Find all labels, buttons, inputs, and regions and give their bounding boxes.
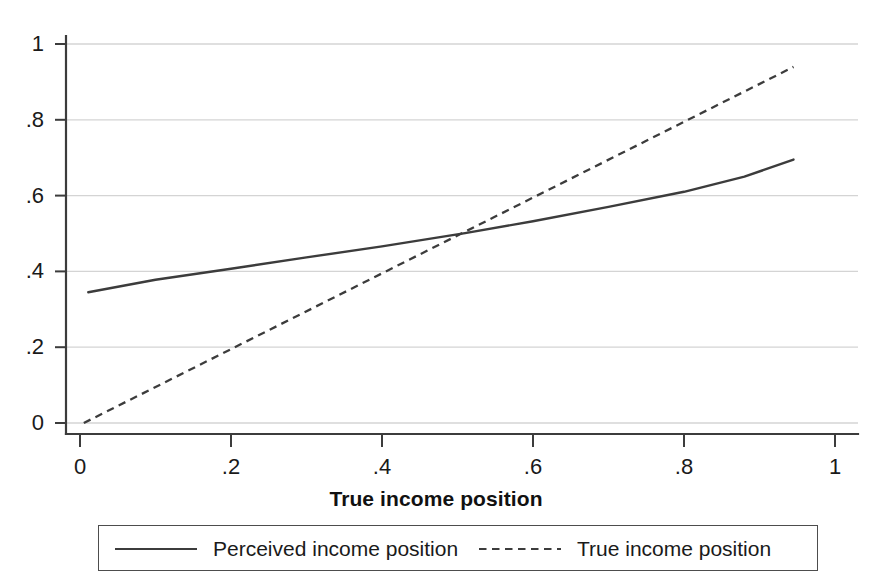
chart-figure: 1 .8 .6 .4 .2 0 0 .2 .4 .6 .8 1 True inc… — [0, 0, 872, 581]
y-tick-label-06: .6 — [0, 185, 44, 207]
x-axis-title: True income position — [0, 487, 872, 511]
legend-entry-true-income-position[interactable]: True income position — [477, 526, 771, 572]
legend-entry-perceived-income-position[interactable]: Perceived income position — [113, 526, 458, 572]
chart-legend: Perceived income position True income po… — [98, 525, 818, 571]
y-tick-label-04: .4 — [0, 260, 44, 282]
legend-sample-solid-line — [113, 542, 199, 556]
x-tick-label-08: .8 — [675, 456, 693, 478]
legend-sample-dashed-line — [477, 542, 563, 556]
x-axis-ticks — [80, 434, 835, 447]
legend-label-true-income-position: True income position — [577, 537, 771, 561]
legend-label-perceived-income-position: Perceived income position — [213, 537, 458, 561]
x-tick-label-1: 1 — [829, 456, 841, 478]
x-tick-label-04: .4 — [373, 456, 391, 478]
x-tick-label-06: .6 — [524, 456, 542, 478]
y-axis-ticks — [55, 44, 66, 423]
x-tick-label-0: 0 — [74, 456, 86, 478]
x-tick-label-02: .2 — [222, 456, 240, 478]
series-line-perceived-income-position — [88, 160, 793, 293]
y-tick-label-1: 1 — [0, 33, 44, 55]
y-tick-label-02: .2 — [0, 336, 44, 358]
y-tick-label-08: .8 — [0, 109, 44, 131]
axis-lines — [66, 36, 858, 434]
y-tick-label-0: 0 — [0, 412, 44, 434]
